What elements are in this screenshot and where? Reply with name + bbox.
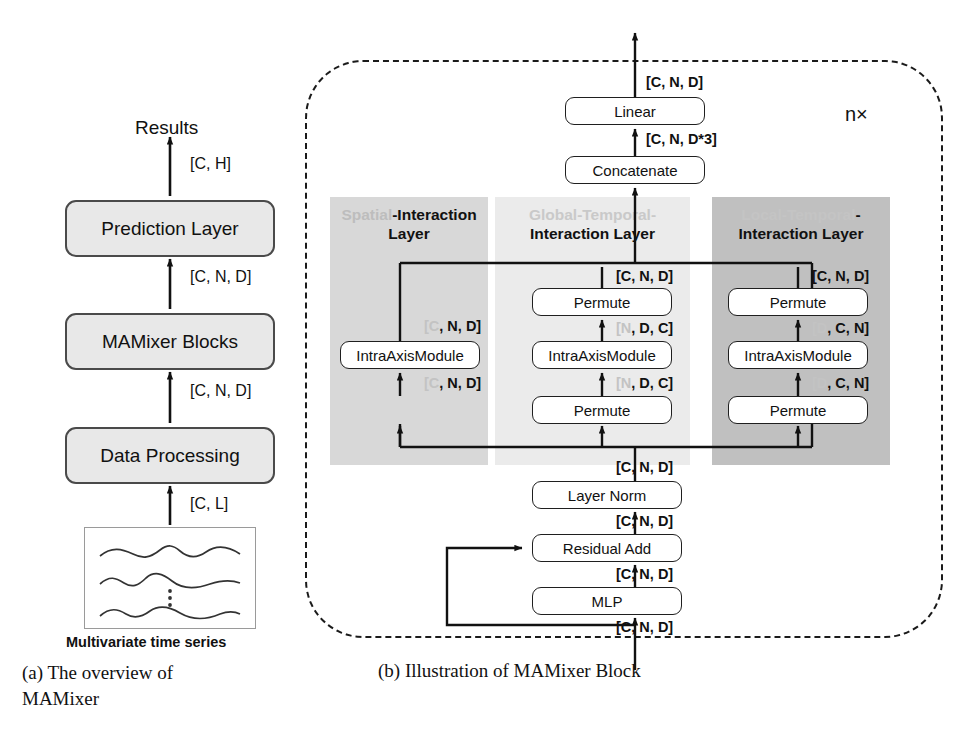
tag-spatial-top-rest: , N, D] (439, 318, 481, 334)
block-global-intraaxismodule[interactable]: IntraAxisModule (532, 341, 672, 369)
header-local-bold: - (856, 206, 861, 223)
tag-global-out: [C, N, D] (616, 268, 673, 284)
header-global-faint: Global-Temporal- (529, 206, 656, 223)
block-local-intraaxismodule[interactable]: IntraAxisModule (728, 341, 868, 369)
tag-local-top-faint: [D (812, 320, 827, 336)
tag-global-top-faint: [N (616, 320, 631, 336)
tag-mlp-in: [C, N, D] (616, 619, 673, 635)
tag-spatial-bottom-faint: [C (424, 375, 439, 391)
block-residual-add[interactable]: Residual Add (532, 534, 682, 562)
overview-block-data-processing[interactable]: Data Processing (65, 427, 275, 484)
header-local-bold2: Interaction Layer (739, 225, 864, 242)
overview-edge-label-prediction-in: [C, N, D] (190, 268, 251, 286)
header-spatial-interaction-layer: Spatial-Interaction Layer (330, 205, 488, 243)
overview-block-mamixer-blocks[interactable]: MAMixer Blocks (65, 313, 275, 370)
tag-local-bottom-rest: , C, N] (827, 375, 869, 391)
tag-top-output: [C, N, D] (646, 74, 703, 90)
block-global-permute-bottom[interactable]: Permute (532, 396, 672, 424)
header-spatial-bold: -Interaction Layer (388, 206, 476, 242)
block-mlp[interactable]: MLP (532, 587, 682, 615)
tag-spatial-bottom: [C, N, D] (424, 375, 481, 391)
block-spatial-intraaxismodule[interactable]: IntraAxisModule (340, 341, 480, 369)
overview-edge-label-dataproc-in: [C, L] (190, 495, 228, 513)
header-local-temporal-interaction-layer: Local-Temporal- Interaction Layer (712, 205, 890, 243)
tag-spatial-top: [C, N, D] (424, 318, 481, 334)
header-global-temporal-interaction-layer: Global-Temporal- Interaction Layer (495, 205, 690, 243)
tag-layernorm-out: [C, N, D] (616, 459, 673, 475)
tag-spatial-top-faint: [C (424, 318, 439, 334)
tag-layernorm-in: [C, N, D] (616, 513, 673, 529)
block-layer-norm[interactable]: Layer Norm (532, 481, 682, 509)
tag-concat-out: [C, N, D*3] (646, 131, 717, 147)
tag-global-bottom: [N, D, C] (616, 375, 673, 391)
block-linear[interactable]: Linear (565, 97, 705, 125)
caption-a: (a) The overview of MAMixer (22, 660, 237, 711)
block-global-permute-top[interactable]: Permute (532, 288, 672, 316)
multivariate-time-series-caption: Multivariate time series (66, 634, 226, 650)
overview-edge-label-mamixer-in: [C, N, D] (190, 382, 251, 400)
multivariate-time-series-box (84, 527, 256, 629)
block-local-permute-bottom[interactable]: Permute (728, 396, 868, 424)
tag-global-top: [N, D, C] (616, 320, 673, 336)
header-spatial-faint: Spatial (341, 206, 392, 223)
caption-b: (b) Illustration of MAMixer Block (378, 660, 641, 682)
header-local-faint: Local-Temporal (741, 206, 855, 223)
tag-global-top-rest: , D, C] (631, 320, 673, 336)
tag-residual-in: [C, N, D] (616, 566, 673, 582)
repeat-count-label: n× (845, 103, 868, 126)
tag-local-top: [D, C, N] (812, 320, 869, 336)
tag-local-top-rest: , C, N] (827, 320, 869, 336)
tag-local-bottom-faint: [D (812, 375, 827, 391)
overview-block-prediction-layer[interactable]: Prediction Layer (65, 200, 275, 257)
block-concatenate[interactable]: Concatenate (565, 156, 705, 184)
tag-local-bottom: [D, C, N] (812, 375, 869, 391)
tag-global-bottom-rest: , D, C] (631, 375, 673, 391)
block-local-permute-top[interactable]: Permute (728, 288, 868, 316)
tag-global-bottom-faint: [N (616, 375, 631, 391)
overview-output-label: Results (135, 117, 198, 139)
overview-edge-label-to-results: [C, H] (190, 155, 231, 173)
tag-spatial-bottom-rest: , N, D] (439, 375, 481, 391)
header-global-bold: Interaction Layer (530, 225, 655, 242)
tag-local-out: [C, N, D] (812, 268, 869, 284)
